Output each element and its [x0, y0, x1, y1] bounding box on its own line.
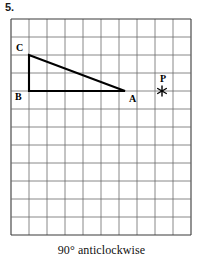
transformation-caption: 90° anticlockwise: [0, 243, 203, 258]
vertex-label-a: A: [129, 93, 137, 104]
point-p-marker: P: [158, 73, 167, 96]
geometry-diagram: ABC P: [0, 0, 203, 262]
grid-lines: [11, 19, 191, 235]
vertex-label-c: C: [16, 42, 23, 53]
vertex-label-b: B: [15, 91, 22, 102]
point-p-label: P: [160, 73, 166, 84]
